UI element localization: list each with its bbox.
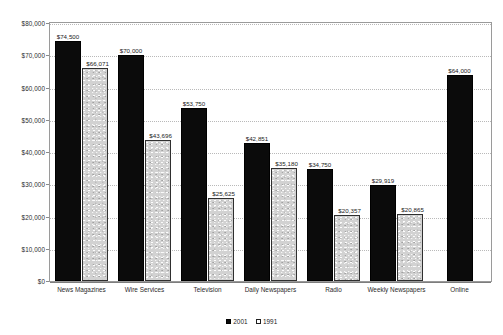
y-axis-tick-mark bbox=[46, 88, 49, 89]
bar-value-label: $29,919 bbox=[372, 177, 395, 184]
legend-label: 2001 bbox=[233, 318, 247, 325]
bar-chart: $0$10,000$20,000$30,000$40,000$50,000$60… bbox=[0, 0, 503, 335]
y-axis-tick-mark bbox=[46, 152, 49, 153]
y-axis-tick-mark bbox=[46, 120, 49, 121]
bar[interactable]: $29,919 bbox=[370, 185, 396, 281]
bar-value-label: $53,750 bbox=[183, 100, 206, 107]
bar[interactable]: $34,750 bbox=[307, 169, 333, 281]
bar-value-label: $20,357 bbox=[338, 207, 361, 214]
bar[interactable]: $70,000 bbox=[118, 55, 144, 281]
bar-value-label: $70,000 bbox=[120, 47, 143, 54]
bar-group: $53,750$25,625 bbox=[176, 23, 239, 281]
bar-value-label: $25,625 bbox=[212, 190, 235, 197]
y-axis-tick-mark bbox=[46, 184, 49, 185]
bar-groups: $74,500$66,071$70,000$43,696$53,750$25,6… bbox=[50, 23, 491, 281]
y-axis-tick-mark bbox=[46, 217, 49, 218]
y-axis-tick-label: $60,000 bbox=[22, 84, 45, 91]
x-axis-category-label: News Magazines bbox=[50, 286, 113, 294]
y-axis-tick-mark bbox=[46, 23, 49, 24]
legend-item[interactable]: 2001 bbox=[226, 318, 248, 325]
y-axis-tick-mark bbox=[46, 55, 49, 56]
bar-group: $74,500$66,071 bbox=[50, 23, 113, 281]
y-axis-tick-label: $80,000 bbox=[22, 20, 45, 27]
bar[interactable]: $20,357 bbox=[334, 215, 360, 281]
legend-swatch-icon bbox=[226, 319, 231, 324]
x-axis-category-label: Weekly Newspapers bbox=[365, 286, 428, 294]
x-axis-category-labels: News MagazinesWire ServicesTelevisionDai… bbox=[50, 286, 491, 294]
bar[interactable]: $74,500 bbox=[55, 41, 81, 281]
bar-value-label: $20,865 bbox=[401, 206, 424, 213]
gridline bbox=[50, 282, 491, 283]
x-axis-category-label: Wire Services bbox=[113, 286, 176, 294]
bar-group: $64,000 bbox=[428, 23, 491, 281]
y-axis-tick-label: $40,000 bbox=[22, 149, 45, 156]
y-axis-tick-label: $10,000 bbox=[22, 245, 45, 252]
legend-label: 1991 bbox=[263, 318, 277, 325]
x-axis-category-label: Daily Newspapers bbox=[239, 286, 302, 294]
bar[interactable]: $20,865 bbox=[397, 214, 423, 281]
y-axis-tick-label: $50,000 bbox=[22, 116, 45, 123]
y-axis-tick-label: $30,000 bbox=[22, 181, 45, 188]
chart-legend: 20011991 bbox=[0, 318, 503, 325]
legend-swatch-icon bbox=[256, 319, 261, 324]
bar-value-label: $34,750 bbox=[309, 161, 332, 168]
bar-value-label: $43,696 bbox=[149, 132, 172, 139]
y-axis-tick-mark bbox=[46, 281, 49, 282]
bar-group: $42,851$35,180 bbox=[239, 23, 302, 281]
bar[interactable]: $42,851 bbox=[244, 143, 270, 281]
y-axis-tick-label: $20,000 bbox=[22, 213, 45, 220]
bar[interactable]: $25,625 bbox=[208, 198, 234, 281]
bar[interactable]: $43,696 bbox=[145, 140, 171, 281]
y-axis-tick-label: $0 bbox=[38, 278, 45, 285]
bar-value-label: $35,180 bbox=[275, 160, 298, 167]
x-axis-category-label: Television bbox=[176, 286, 239, 294]
bar-group: $29,919$20,865 bbox=[365, 23, 428, 281]
x-axis-category-label: Radio bbox=[302, 286, 365, 294]
bar-value-label: $74,500 bbox=[57, 33, 80, 40]
bar-value-label: $42,851 bbox=[246, 135, 269, 142]
bar-value-label: $66,071 bbox=[86, 60, 109, 67]
bar-group: $34,750$20,357 bbox=[302, 23, 365, 281]
y-axis-tick-mark bbox=[46, 249, 49, 250]
bar[interactable]: $66,071 bbox=[82, 68, 108, 281]
bar[interactable]: $64,000 bbox=[447, 75, 473, 281]
x-axis-category-label: Online bbox=[428, 286, 491, 294]
legend-item[interactable]: 1991 bbox=[256, 318, 278, 325]
bar[interactable]: $35,180 bbox=[271, 168, 297, 281]
bar-value-label: $64,000 bbox=[448, 67, 471, 74]
y-axis-tick-label: $70,000 bbox=[22, 52, 45, 59]
bar[interactable]: $53,750 bbox=[181, 108, 207, 281]
bar-group: $70,000$43,696 bbox=[113, 23, 176, 281]
